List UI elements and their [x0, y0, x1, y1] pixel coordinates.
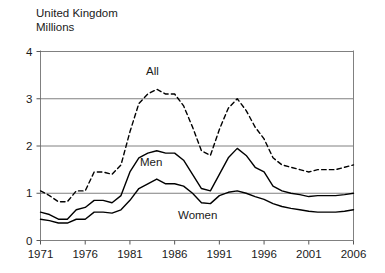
- y-tick-label-0: 0: [26, 235, 32, 247]
- series-label-women: Women: [178, 209, 217, 221]
- y-tick-label-4: 4: [26, 46, 33, 58]
- x-tick-label-1996: 1996: [251, 248, 277, 260]
- series-label-all: All: [146, 65, 159, 77]
- x-tick-labels-group: 19711976198119861991199620012006: [28, 248, 367, 260]
- y-tick-label-2: 2: [26, 140, 32, 152]
- x-tick-marks-group: [41, 241, 354, 245]
- series-lines-group: [41, 89, 354, 223]
- y-tick-label-1: 1: [26, 187, 32, 199]
- x-tick-label-1971: 1971: [28, 248, 54, 260]
- x-tick-label-1991: 1991: [207, 248, 233, 260]
- x-tick-label-1976: 1976: [72, 248, 98, 260]
- line-chart-svg: 01234 19711976198119861991199620012006 A…: [0, 0, 385, 273]
- y-tick-labels-group: 01234: [26, 46, 40, 247]
- x-tick-label-1986: 1986: [162, 248, 188, 260]
- y-tick-label-3: 3: [26, 93, 32, 105]
- x-tick-label-2001: 2001: [296, 248, 322, 260]
- x-tick-label-1981: 1981: [117, 248, 143, 260]
- chart-container: United Kingdom Millions 01234 1971197619…: [0, 0, 385, 273]
- series-label-men: Men: [140, 156, 162, 168]
- x-tick-label-2006: 2006: [341, 248, 367, 260]
